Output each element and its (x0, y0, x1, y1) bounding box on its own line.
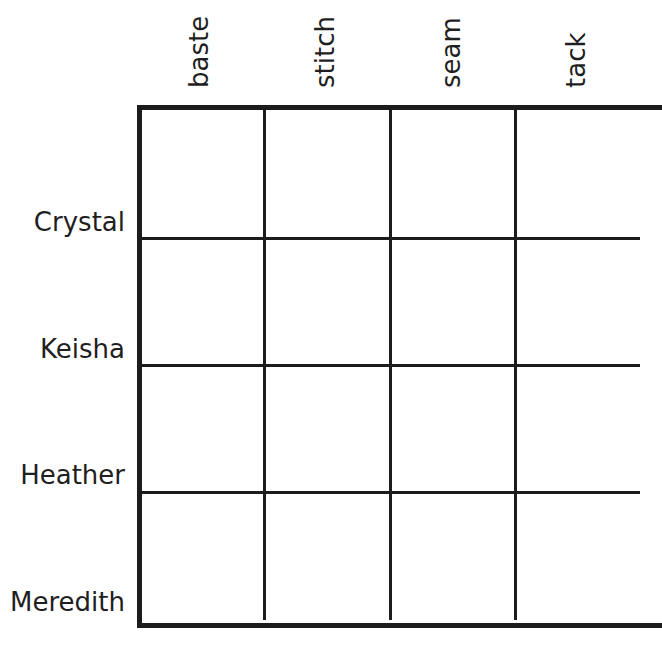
grid-cell-keisha-baste[interactable] (142, 240, 263, 364)
grid-cell-meredith-stitch[interactable] (266, 494, 389, 618)
row-label-meredith: Meredith (10, 587, 125, 617)
grid-cell-heather-stitch[interactable] (266, 367, 389, 491)
row-label-heather: Heather (20, 460, 125, 490)
grid-cell-crystal-tack[interactable] (517, 110, 631, 237)
grid-cell-crystal-baste[interactable] (142, 110, 263, 237)
column-label-stitch: stitch (312, 16, 338, 88)
row-label-keisha: Keisha (40, 334, 125, 364)
grid-cell-crystal-seam[interactable] (392, 110, 514, 237)
column-label-seam: seam (438, 17, 464, 88)
grid-cell-keisha-seam[interactable] (392, 240, 514, 364)
grid-cell-meredith-baste[interactable] (142, 494, 263, 618)
grid-cell-crystal-stitch[interactable] (266, 110, 389, 237)
column-label-tack: tack (563, 33, 589, 88)
grid-cell-heather-seam[interactable] (392, 367, 514, 491)
grid-cell-meredith-tack[interactable] (517, 494, 631, 618)
grid-cell-heather-baste[interactable] (142, 367, 263, 491)
column-label-baste: baste (186, 16, 212, 88)
grid-cell-meredith-seam[interactable] (392, 494, 514, 618)
row-label-crystal: Crystal (34, 207, 125, 237)
grid-cell-keisha-tack[interactable] (517, 240, 631, 364)
grid-cell-heather-tack[interactable] (517, 367, 631, 491)
grid-cell-keisha-stitch[interactable] (266, 240, 389, 364)
